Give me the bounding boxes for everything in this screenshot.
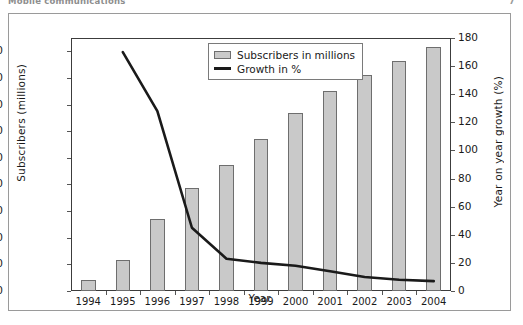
x-tick-label: 1994 — [71, 296, 106, 307]
y-left-tick-label: 30 — [0, 204, 3, 216]
x-tick — [140, 291, 141, 295]
x-tick — [347, 291, 348, 295]
x-tick-label: 1995 — [106, 296, 141, 307]
x-tick — [209, 291, 210, 295]
x-tick-label: 1996 — [140, 296, 175, 307]
y-right-tick — [451, 38, 455, 39]
y-right-tick-label: 120 — [458, 115, 478, 127]
y-right-tick — [451, 94, 455, 95]
y-right-tick — [451, 291, 455, 292]
legend-label-growth: Growth in % — [237, 63, 301, 75]
x-tick — [278, 291, 279, 295]
y-right-tick-label: 100 — [458, 143, 478, 155]
y-left-tick-label: 10 — [0, 257, 3, 269]
y-right-tick-label: 140 — [458, 87, 478, 99]
running-title: Mobile communications — [8, 0, 125, 6]
y-right-tick — [451, 235, 455, 236]
y-left-tick-label: 50 — [0, 151, 3, 163]
x-tick-label: 2001 — [313, 296, 348, 307]
y-right-tick — [451, 207, 455, 208]
y-left-tick-label: 60 — [0, 124, 3, 136]
y-right-tick — [451, 179, 455, 180]
page-number: 7 — [509, 0, 515, 6]
y-right-tick — [451, 263, 455, 264]
chart-legend: Subscribers in millions Growth in % — [208, 43, 363, 80]
y-left-tick-label: 70 — [0, 98, 3, 110]
y-right-tick-label: 160 — [458, 59, 478, 71]
y-left-tick-label: 80 — [0, 71, 3, 83]
y-right-tick-label: 80 — [458, 172, 471, 184]
line-swatch-icon — [214, 67, 231, 70]
y-left-tick-label: 20 — [0, 231, 3, 243]
x-tick-label: 2004 — [416, 296, 451, 307]
x-tick — [313, 291, 314, 295]
y-left-tick-label: 90 — [0, 44, 3, 56]
plot-region: 0102030405060708090 02040608010012014016… — [71, 38, 451, 291]
y-left-tick — [67, 291, 71, 292]
x-tick-label: 1998 — [209, 296, 244, 307]
y-right-tick-label: 40 — [458, 228, 471, 240]
x-tick-label: 2003 — [382, 296, 417, 307]
y-axis-right-title: Year on year growth (%) — [492, 76, 506, 207]
figure-frame: Subscribers (millions) Year on year grow… — [8, 13, 511, 311]
y-right-tick-label: 20 — [458, 256, 471, 268]
y-right-tick — [451, 66, 455, 67]
x-tick — [244, 291, 245, 295]
y-axis-left-title: Subscribers (millions) — [15, 64, 29, 182]
x-tick — [106, 291, 107, 295]
bar-swatch-icon — [214, 51, 231, 59]
y-left-tick-label: 40 — [0, 177, 3, 189]
legend-item-subscribers: Subscribers in millions — [214, 48, 355, 61]
y-right-tick — [451, 150, 455, 151]
x-tick-label: 1997 — [175, 296, 210, 307]
x-tick-label: 1999 — [244, 296, 279, 307]
page-header: Mobile communications 7 — [8, 0, 515, 9]
x-tick-label: 2002 — [347, 296, 382, 307]
y-right-tick-label: 60 — [458, 200, 471, 212]
x-tick — [382, 291, 383, 295]
legend-label-subscribers: Subscribers in millions — [237, 49, 355, 61]
x-tick-label: 2000 — [278, 296, 313, 307]
y-right-tick-label: 0 — [458, 284, 465, 296]
y-left-tick-label: 0 — [0, 284, 3, 296]
y-right-tick-label: 180 — [458, 31, 478, 43]
x-tick — [175, 291, 176, 295]
x-tick — [416, 291, 417, 295]
legend-item-growth: Growth in % — [214, 62, 355, 75]
y-right-tick — [451, 122, 455, 123]
